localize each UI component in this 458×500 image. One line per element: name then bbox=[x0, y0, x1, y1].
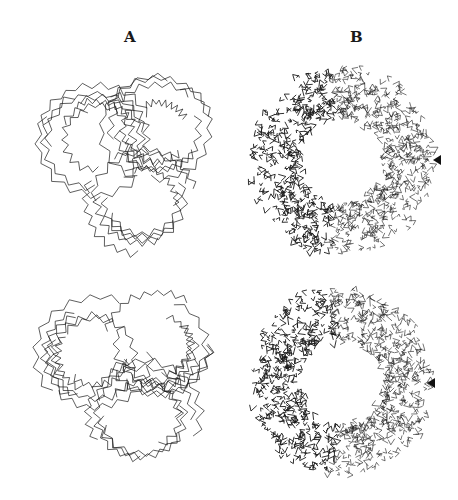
backbone-trace-bottom bbox=[33, 290, 214, 461]
backbone-trace-top bbox=[35, 73, 212, 257]
arrowhead-left-icon bbox=[427, 378, 435, 388]
atom-model-bottom bbox=[250, 286, 434, 478]
atom-model-top bbox=[248, 66, 438, 257]
figure-canvas bbox=[0, 0, 458, 500]
